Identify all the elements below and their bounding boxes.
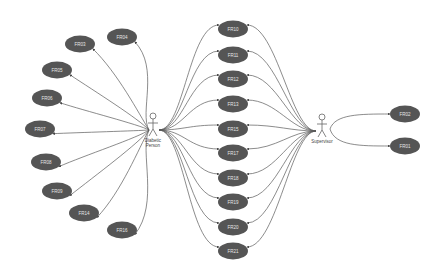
association-edge — [247, 75, 316, 131]
use-case-fr17[interactable]: FR17 — [218, 145, 248, 162]
association-edge — [159, 25, 219, 130]
use-case-fr13[interactable]: FR13 — [218, 96, 248, 113]
use-case-label: FR05 — [51, 68, 63, 73]
association-edge — [70, 75, 149, 130]
use-case-fr05[interactable]: FR05 — [42, 62, 72, 79]
association-edge — [159, 130, 219, 247]
use-case-fr04[interactable]: FR04 — [107, 29, 137, 46]
use-case-fr12[interactable]: FR12 — [218, 71, 248, 88]
association-edge — [159, 130, 219, 223]
association-edge — [159, 51, 219, 130]
use-case-label: FR02 — [399, 112, 411, 117]
use-case-label: FR10 — [227, 27, 239, 32]
use-case-diagram: FR03FR04FR05FR06FR07FR08FR09FR14FR16FR10… — [0, 0, 428, 278]
use-case-label: FR12 — [227, 77, 239, 82]
use-case-fr14[interactable]: FR14 — [69, 205, 99, 222]
use-case-label: FR04 — [116, 35, 128, 40]
association-edge — [97, 130, 149, 218]
association-edge — [93, 49, 149, 130]
use-case-label: FR16 — [116, 228, 128, 233]
use-case-label: FR03 — [74, 42, 86, 47]
use-case-label: FR06 — [41, 96, 53, 101]
association-edge — [135, 42, 149, 130]
use-case-fr18[interactable]: FR18 — [218, 170, 248, 187]
actor-head-icon — [319, 114, 325, 120]
use-case-fr08[interactable]: FR08 — [31, 154, 61, 171]
association-edge — [330, 129, 390, 146]
use-case-label: FR19 — [227, 200, 239, 205]
use-case-fr19[interactable]: FR19 — [218, 194, 248, 211]
association-edge — [330, 114, 390, 129]
use-case-fr01[interactable]: FR01 — [390, 138, 420, 155]
use-case-fr03[interactable]: FR03 — [65, 36, 95, 53]
use-case-fr11[interactable]: FR11 — [218, 47, 248, 64]
association-edge — [59, 130, 149, 167]
use-case-label: FR21 — [227, 249, 239, 254]
use-case-fr07[interactable]: FR07 — [25, 121, 55, 138]
use-case-fr10[interactable]: FR10 — [218, 21, 248, 38]
actor-head-icon — [150, 113, 156, 119]
association-edge — [159, 75, 219, 130]
association-edge — [70, 130, 149, 196]
use-case-label: FR08 — [40, 160, 52, 165]
association-edge — [53, 130, 149, 134]
use-case-label: FR20 — [227, 225, 239, 230]
use-case-label: FR11 — [228, 53, 239, 58]
actor-name-line2: Person — [146, 143, 161, 148]
use-case-nodes: FR03FR04FR05FR06FR07FR08FR09FR14FR16FR10… — [25, 21, 420, 260]
use-case-fr15[interactable]: FR15 — [218, 121, 248, 138]
use-case-fr09[interactable]: FR09 — [42, 183, 72, 200]
use-case-label: FR09 — [51, 189, 63, 194]
use-case-fr16[interactable]: FR16 — [107, 222, 137, 239]
association-edge — [159, 130, 219, 149]
association-edge — [247, 25, 316, 131]
use-case-label: FR18 — [227, 176, 239, 181]
association-edge — [247, 131, 316, 223]
use-case-label: FR07 — [34, 127, 46, 132]
use-case-fr06[interactable]: FR06 — [32, 90, 62, 107]
use-case-label: FR14 — [78, 211, 90, 216]
use-case-label: FR17 — [227, 151, 239, 156]
use-case-label: FR01 — [399, 144, 411, 149]
use-case-label: FR15 — [227, 127, 239, 132]
use-case-fr02[interactable]: FR02 — [390, 106, 420, 123]
actor-name: Supervisor — [311, 139, 333, 144]
use-case-fr20[interactable]: FR20 — [218, 219, 248, 236]
actor-supervisor[interactable]: Supervisor — [311, 114, 333, 144]
association-edge — [247, 51, 316, 131]
actor-diabetic[interactable]: DiabeticPerson — [145, 113, 162, 148]
use-case-fr21[interactable]: FR21 — [218, 243, 248, 260]
use-case-label: FR13 — [227, 102, 239, 107]
